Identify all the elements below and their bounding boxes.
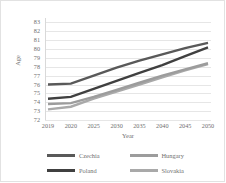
y-tick-label: 81: [2, 37, 40, 43]
x-tick-label: 2025: [88, 122, 100, 130]
y-tick-label: 83: [2, 19, 40, 25]
legend-label: Hungary: [162, 152, 184, 159]
y-tick-label: 74: [2, 99, 40, 105]
x-tick-label: 2045: [179, 122, 191, 130]
series-line-czechia: [48, 43, 208, 85]
legend-item-hungary[interactable]: Hungary: [130, 152, 213, 159]
legend-label: Slovakia: [162, 167, 184, 174]
series-lines: [45, 18, 211, 120]
x-tick-label: 2030: [110, 122, 122, 130]
legend-label: Poland: [79, 167, 97, 174]
y-tick-label: 78: [2, 64, 40, 70]
y-tick-label: 73: [2, 108, 40, 114]
legend-item-czechia[interactable]: Czechia: [47, 152, 130, 159]
gridline: [45, 120, 211, 121]
x-axis-title: Year: [45, 132, 211, 139]
legend-label: Czechia: [79, 152, 100, 159]
x-tick-label: 2040: [156, 122, 168, 130]
legend-swatch-icon: [130, 169, 158, 172]
y-tick-label: 79: [2, 55, 40, 61]
legend-swatch-icon: [47, 169, 75, 172]
legend-item-poland[interactable]: Poland: [47, 167, 130, 174]
chart-legend: CzechiaHungaryPolandSlovakia: [47, 148, 212, 178]
x-tick-label: 2019: [42, 122, 54, 130]
y-axis-tick-labels: 838281807978777675747372: [1, 18, 42, 120]
y-tick-label: 72: [2, 117, 40, 123]
y-tick-label: 75: [2, 90, 40, 96]
y-tick-label: 80: [2, 46, 40, 52]
y-tick-label: 82: [2, 28, 40, 34]
plot-area: [45, 18, 211, 120]
x-tick-label: 2035: [133, 122, 145, 130]
y-tick-label: 76: [2, 82, 40, 88]
chart-frame: Age 838281807978777675747372 20192020202…: [0, 0, 225, 182]
x-tick-label: 2050: [202, 122, 214, 130]
legend-item-slovakia[interactable]: Slovakia: [130, 167, 213, 174]
series-line-poland: [48, 47, 208, 98]
x-tick-label: 2020: [65, 122, 77, 130]
x-axis-tick-labels: 20192020202520302035204020452050: [45, 122, 211, 132]
legend-swatch-icon: [130, 154, 158, 157]
legend-swatch-icon: [47, 154, 75, 157]
y-tick-label: 77: [2, 73, 40, 79]
